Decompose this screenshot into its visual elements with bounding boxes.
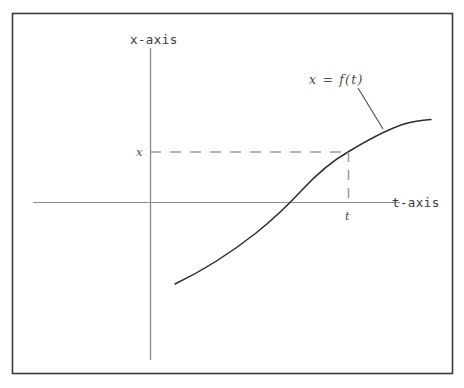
y-axis-label: x-axis	[130, 32, 178, 47]
function-label: x = f(t)	[309, 72, 363, 87]
figure-background	[0, 0, 464, 388]
x-axis-label: t-axis	[392, 195, 440, 210]
figure-container: x-axis t-axis x = f(t) x t	[0, 0, 464, 388]
x-value-label: x	[136, 145, 143, 159]
t-value-label: t	[345, 209, 350, 223]
graph-canvas: x-axis t-axis x = f(t) x t	[0, 0, 464, 388]
